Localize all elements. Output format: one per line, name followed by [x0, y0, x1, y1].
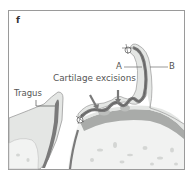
suture-knot-lower [77, 117, 83, 123]
panel-letter: f [16, 16, 20, 25]
label-cartilage-excisions: Cartilage excisions [53, 74, 136, 83]
cartilage-excision-diagram: f Tragus Cartilage excisions A B [0, 0, 193, 180]
condyle-bone [9, 139, 38, 169]
label-tragus: Tragus [14, 89, 42, 98]
label-a: A [116, 62, 122, 71]
label-b: B [169, 62, 175, 71]
